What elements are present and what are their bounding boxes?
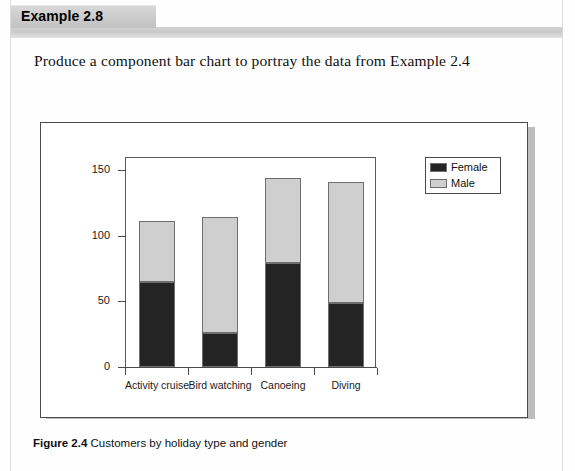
- y-axis-tick-label: 0: [70, 360, 110, 372]
- bar-activity-cruise: [139, 221, 175, 367]
- bar-canoeing: [265, 178, 301, 367]
- x-axis-tick-mark: [125, 368, 126, 375]
- x-axis-tick-mark: [188, 368, 189, 375]
- bar-segment-female: [328, 303, 364, 367]
- y-axis-tick-mark: [118, 170, 125, 171]
- bar-bird-watching: [202, 217, 238, 367]
- bar-segment-male: [139, 221, 175, 282]
- legend-swatch-male: [430, 179, 447, 188]
- page-left-rule: [10, 0, 11, 471]
- figure-caption-title: Customers by holiday type and gender: [91, 437, 288, 449]
- x-axis-tick-mark: [377, 368, 378, 375]
- y-axis-tick-mark: [118, 301, 125, 302]
- bar-diving: [328, 182, 364, 367]
- bar-segment-male: [328, 182, 364, 303]
- page-right-rule: [562, 0, 563, 471]
- y-axis-tick-mark: [118, 236, 125, 237]
- bar-segment-female: [139, 282, 175, 367]
- legend-swatch-female: [430, 163, 447, 172]
- x-axis-tick-label: Diving: [286, 379, 406, 391]
- y-axis-tick-label: 100: [70, 229, 110, 241]
- legend-label-male: Male: [451, 177, 475, 189]
- bar-segment-female: [202, 333, 238, 367]
- y-axis-tick-label: 50: [70, 294, 110, 306]
- chart-legend: FemaleMale: [425, 157, 501, 194]
- example-header-strip: [11, 27, 562, 38]
- bar-segment-male: [202, 217, 238, 333]
- y-axis-tick-label: 150: [70, 163, 110, 175]
- example-header-tab: Example 2.8: [11, 5, 156, 28]
- y-axis-tick-mark: [118, 367, 125, 368]
- legend-label-female: Female: [451, 161, 488, 173]
- bar-segment-female: [265, 263, 301, 367]
- figure-caption-number: Figure 2.4: [33, 437, 87, 449]
- bar-segment-male: [265, 178, 301, 263]
- page-canvas: Example 2.8 Produce a component bar char…: [0, 0, 575, 471]
- x-axis-tick-mark: [314, 368, 315, 375]
- x-axis-tick-mark: [251, 368, 252, 375]
- example-header-label: Example 2.8: [21, 8, 103, 24]
- example-prompt-text: Produce a component bar chart to portray…: [34, 52, 514, 70]
- figure-caption: Figure 2.4 Customers by holiday type and…: [33, 437, 287, 449]
